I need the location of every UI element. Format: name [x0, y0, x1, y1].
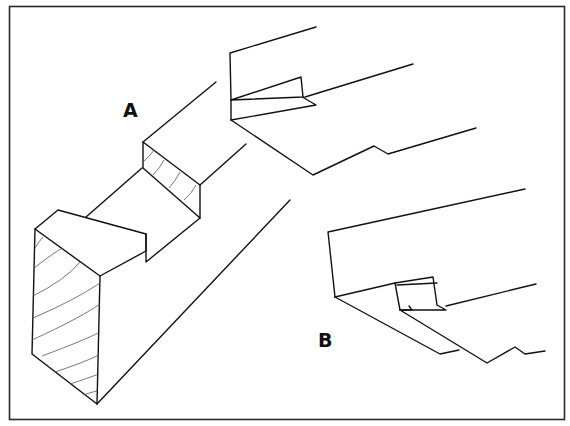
joint-a-housing — [86, 82, 246, 218]
joint-a-end-block — [32, 200, 290, 404]
joint-b-drawing: B — [318, 189, 545, 363]
joint-diagram: A B — [0, 0, 570, 426]
label-a: A — [123, 99, 138, 121]
end-grain-rings — [32, 237, 100, 395]
joint-a-drawing: A — [32, 27, 476, 404]
joint-a-mortise-piece — [230, 27, 476, 175]
label-b: B — [318, 329, 332, 351]
